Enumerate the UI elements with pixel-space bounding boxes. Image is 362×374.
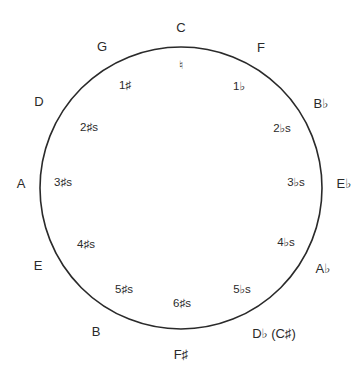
signature-2-flats: 2♭s (273, 123, 291, 135)
signature-5-sharps: 5♯s (115, 284, 133, 296)
signature-1-flat: 1♭ (233, 81, 245, 93)
key-label-b: B (92, 325, 101, 338)
signature-5-flats: 5♭s (233, 284, 251, 296)
ring-outline (40, 47, 322, 329)
key-label-g: G (97, 40, 107, 53)
key-label-a: A (17, 177, 26, 190)
key-label-a-flat: A♭ (316, 262, 331, 275)
signature-3-flats: 3♭s (287, 177, 305, 189)
key-label-e-flat: E♭ (337, 177, 352, 190)
key-label-c: C (176, 21, 185, 34)
key-label-d: D (34, 95, 43, 108)
signature-4-flats: 4♭s (277, 237, 295, 249)
signature-1-sharp: 1♯ (119, 80, 131, 92)
key-label-f-sharp: F♯ (174, 348, 188, 361)
key-label-e: E (34, 259, 43, 272)
signature-2-sharps: 2♯s (80, 122, 98, 134)
key-label-d-flat-c-sharp: D♭ (C♯) (252, 327, 296, 340)
signature-6-sharps: 6♯s (173, 298, 191, 310)
signature-4-sharps: 4♯s (77, 239, 95, 251)
key-label-f: F (257, 41, 265, 54)
key-label-b-flat: B♭ (314, 97, 329, 110)
signature-3-sharps: 3♯s (54, 177, 72, 189)
signature-natural-icon: ♮ (179, 60, 183, 72)
